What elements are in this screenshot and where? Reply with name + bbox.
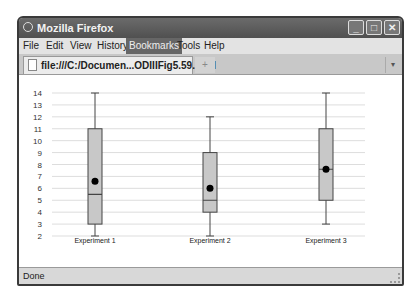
status-bar: Done (19, 267, 402, 285)
y-tick-label: 12 (33, 113, 42, 122)
menu-file[interactable]: File (23, 40, 39, 51)
maximize-button[interactable]: □ (366, 20, 382, 35)
browser-window: Mozilla Firefox _ □ ✕ File Edit View His… (17, 16, 404, 286)
mean-dot (323, 166, 330, 173)
menu-view[interactable]: View (70, 40, 92, 51)
firefox-icon (23, 22, 33, 32)
x-category-label: Experiment 3 (305, 237, 346, 245)
y-tick-label: 3 (38, 220, 43, 229)
mean-dot (92, 178, 99, 185)
y-tick-label: 11 (34, 125, 43, 134)
y-tick-label: 8 (38, 161, 43, 170)
y-tick-label: 5 (38, 196, 43, 205)
y-tick-label: 2 (38, 232, 43, 241)
tab-active[interactable]: file:///C:/Documen...ODIIIFig5.59.html (23, 56, 193, 74)
menu-bar: File Edit View History Bookmarks Tools H… (19, 38, 402, 54)
y-tick-label: 10 (33, 137, 42, 146)
tab-bar: file:///C:/Documen...ODIIIFig5.59.html +… (19, 54, 402, 75)
close-button[interactable]: ✕ (384, 20, 400, 35)
menu-history[interactable]: History (97, 40, 128, 51)
menu-tools[interactable]: Tools (177, 40, 200, 51)
y-tick-label: 6 (38, 184, 43, 193)
document-icon (28, 59, 37, 71)
box (319, 129, 333, 201)
box (203, 153, 217, 213)
window-title: Mozilla Firefox (37, 22, 113, 34)
mean-dot (207, 185, 214, 192)
y-tick-label: 13 (33, 101, 42, 110)
menu-edit[interactable]: Edit (46, 40, 63, 51)
menu-bookmarks[interactable]: Bookmarks (126, 38, 182, 54)
title-bar[interactable]: Mozilla Firefox _ □ ✕ (19, 18, 402, 38)
resize-grip[interactable] (390, 273, 400, 283)
menu-help[interactable]: Help (204, 40, 225, 51)
new-tab-button[interactable]: + (195, 57, 215, 73)
x-category-label: Experiment 1 (74, 237, 115, 245)
y-tick-label: 7 (38, 172, 43, 181)
y-tick-label: 14 (33, 89, 42, 98)
tab-label: file:///C:/Documen...ODIIIFig5.59.html (41, 60, 216, 71)
minimize-button[interactable]: _ (348, 20, 364, 35)
boxplot-chart: 234567891011121314Experiment 1Experiment… (19, 75, 402, 267)
y-tick-label: 9 (38, 149, 43, 158)
x-category-label: Experiment 2 (189, 237, 230, 245)
tab-list-button[interactable]: ▾ (385, 57, 400, 73)
status-text: Done (23, 271, 45, 281)
y-tick-label: 4 (38, 208, 43, 217)
page-content: 234567891011121314Experiment 1Experiment… (19, 75, 402, 267)
box (88, 129, 102, 224)
